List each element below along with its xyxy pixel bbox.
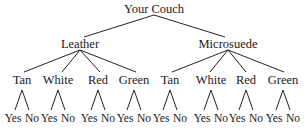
node-microsuede-green: Green: [268, 74, 299, 87]
leaf-no: No: [249, 113, 263, 125]
node-microsuede: Microsuede: [198, 38, 257, 51]
leaf-yes: Yes: [5, 113, 22, 125]
leaf-no: No: [137, 113, 151, 125]
leaf-no: No: [286, 113, 300, 125]
leaf-no: No: [173, 113, 187, 125]
node-leather-white: White: [43, 74, 74, 87]
node-leather-red: Red: [88, 74, 108, 87]
leaf-no: No: [214, 113, 228, 125]
leaf-yes: Yes: [266, 113, 283, 125]
leaf-no: No: [101, 113, 115, 125]
leaf-yes: Yes: [81, 113, 98, 125]
leaf-yes: Yes: [229, 113, 246, 125]
leaf-no: No: [25, 113, 39, 125]
leaf-yes: Yes: [153, 113, 170, 125]
node-microsuede-red: Red: [236, 74, 256, 87]
leaf-yes: Yes: [117, 113, 134, 125]
node-microsuede-white: White: [196, 74, 227, 87]
node-microsuede-tan: Tan: [161, 74, 180, 87]
root-node: Your Couch: [124, 3, 184, 16]
node-leather: Leather: [61, 38, 99, 51]
leaf-yes: Yes: [194, 113, 211, 125]
node-leather-tan: Tan: [13, 74, 32, 87]
node-leather-green: Green: [119, 74, 150, 87]
leaf-yes: Yes: [41, 113, 58, 125]
leaf-no: No: [61, 113, 75, 125]
